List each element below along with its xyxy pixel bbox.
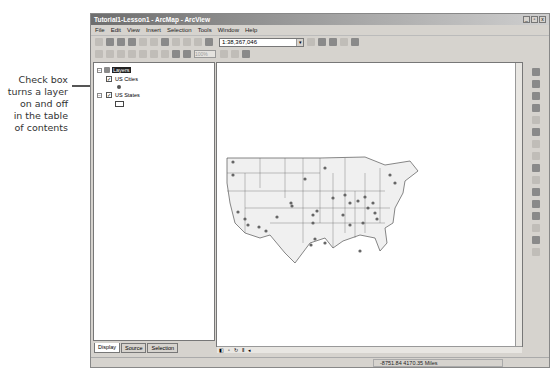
menu-file[interactable]: File [95,27,105,33]
annotation-line: turns a layer [0,86,68,98]
menu-window[interactable]: Window [218,27,239,33]
previous-extent-icon[interactable] [532,140,540,148]
layout-pan-icon[interactable] [117,50,125,58]
editor-toolbar-icon[interactable] [307,38,315,46]
zoom-in-icon[interactable] [532,68,540,76]
refresh-icon[interactable]: ↻ [234,347,238,353]
data-view-button[interactable]: ◧ [219,347,224,353]
layer-name[interactable]: US Cities [115,76,138,82]
toc-layer-us-states[interactable]: − ✓ US States [97,92,140,98]
print-icon[interactable] [128,38,136,46]
window-icon[interactable] [340,38,348,46]
go-forward-extent-icon[interactable] [183,50,191,58]
collapse-icon[interactable]: − [97,93,102,98]
paste-icon[interactable] [161,38,169,46]
map-view[interactable]: ◧ ▫ ↻ Ⅱ ◂ [216,62,523,347]
layer-name[interactable]: US States [115,92,140,98]
save-icon[interactable] [117,38,125,46]
clear-selection-icon[interactable] [532,176,540,184]
status-bar: -8751.84 4170.35 Miles [91,357,549,367]
layers-label[interactable]: Layers [112,67,131,73]
menu-edit[interactable]: Edit [111,27,121,33]
tab-selection[interactable]: Selection [147,343,178,353]
html-popup-icon[interactable] [532,248,540,256]
menu-bar: File Edit View Insert Selection Tools Wi… [91,25,549,36]
us-states-legend [115,101,124,107]
hyperlink-icon[interactable] [532,236,540,244]
table-of-contents: − Layers ✓ US Cities − ✓ US States [93,62,215,341]
cut-icon[interactable] [139,38,147,46]
zoom-whole-page-icon[interactable] [128,50,136,58]
redo-icon[interactable] [194,38,202,46]
toggle-draft-icon[interactable] [220,50,228,58]
scroll-left-icon[interactable]: ◂ [248,347,251,353]
tools-toolbar [523,62,549,347]
layout-toolbar: 100% [91,48,549,60]
pause-drawing-icon[interactable]: Ⅱ [242,347,244,353]
change-layout-icon[interactable] [242,50,250,58]
toc-layer-us-cities[interactable]: ✓ US Cities [106,76,138,82]
arcmap-window: Tutorial1-Lesson1 - ArcMap - ArcView _ ▫… [90,13,550,368]
undo-icon[interactable] [183,38,191,46]
identify-icon[interactable] [532,200,540,208]
us-cities-legend [117,85,121,89]
menu-view[interactable]: View [127,27,140,33]
zoom-100-icon[interactable] [139,50,147,58]
tab-display[interactable]: Display [94,343,120,353]
map-scale-input[interactable]: 1:38,367,046 ▾ [219,38,304,47]
map-nav-bar[interactable]: ◧ ▫ ↻ Ⅱ ◂ [217,346,522,353]
zoom-percent-select[interactable]: 100% [194,50,216,58]
us-cities-checkbox[interactable]: ✓ [106,76,112,82]
toc-tabs: Display Source Selection [94,343,179,353]
cursor-coordinates: -8751.84 4170.35 Miles [373,359,503,367]
point-symbol-icon [117,85,121,89]
find-icon[interactable] [532,212,540,220]
map-vertical-scrollbar[interactable] [515,63,522,346]
pan-icon[interactable] [532,116,540,124]
menu-help[interactable]: Help [245,27,257,33]
fixed-zoom-out-icon[interactable] [161,50,169,58]
fixed-zoom-out-icon[interactable] [532,104,540,112]
zoom-out-icon[interactable] [532,80,540,88]
data-frame-icon [104,67,110,73]
title-bar[interactable]: Tutorial1-Lesson1 - ArcMap - ArcView _ ▫… [91,14,549,25]
open-icon[interactable] [106,38,114,46]
map-scale-value: 1:38,367,046 [222,39,257,45]
menu-tools[interactable]: Tools [198,27,212,33]
delete-icon[interactable] [172,38,180,46]
layout-zoom-in-icon[interactable] [95,50,103,58]
minimize-button[interactable]: _ [523,16,530,23]
menu-selection[interactable]: Selection [167,27,192,33]
go-back-extent-icon[interactable] [172,50,180,58]
us-map[interactable] [225,153,420,273]
menu-insert[interactable]: Insert [146,27,161,33]
tab-source[interactable]: Source [121,343,146,353]
annotation-line: of contents [0,122,68,134]
arccatalog-icon[interactable] [329,38,337,46]
fixed-zoom-in-icon[interactable] [532,92,540,100]
us-states-checkbox[interactable]: ✓ [106,92,112,98]
copy-icon[interactable] [150,38,158,46]
full-extent-icon[interactable] [532,128,540,136]
chevron-down-icon[interactable]: ▾ [296,39,303,46]
close-button[interactable]: x [539,16,546,23]
layout-zoom-out-icon[interactable] [106,50,114,58]
whats-this-icon[interactable] [351,38,359,46]
annotation-line: in the table [0,110,68,122]
new-document-icon[interactable] [95,38,103,46]
select-elements-icon[interactable] [532,188,540,196]
toc-root-layers[interactable]: − Layers [97,67,131,73]
polygon-symbol-icon [115,101,124,107]
fixed-zoom-in-icon[interactable] [150,50,158,58]
layout-view-button[interactable]: ▫ [228,347,230,353]
arctoolbox-icon[interactable] [318,38,326,46]
collapse-icon[interactable]: − [97,68,102,73]
maximize-button[interactable]: ▫ [531,16,538,23]
select-features-icon[interactable] [532,164,540,172]
focus-data-frame-icon[interactable] [231,50,239,58]
next-extent-icon[interactable] [532,152,540,160]
annotation-line: on and off [0,98,68,110]
measure-icon[interactable] [532,224,540,232]
window-title: Tutorial1-Lesson1 - ArcMap - ArcView [94,16,522,23]
add-data-icon[interactable] [205,38,213,46]
